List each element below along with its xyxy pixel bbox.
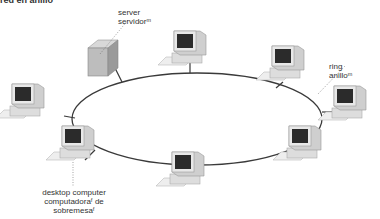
server-label: server servidorᵐ: [118, 8, 151, 26]
desktop-computer-icon: [318, 86, 366, 120]
desktop-computer-icon: [0, 84, 44, 118]
desktop-computer-icon: [158, 31, 206, 65]
desktop-computer-icon: [256, 46, 304, 80]
ring-network-diagram: [0, 0, 380, 219]
desktop-computer-icon: [273, 126, 321, 160]
ring-cable: [72, 73, 322, 165]
desktop-computer-icon: [46, 126, 94, 160]
server-icon: [88, 40, 118, 76]
desktop-computer-icon: [156, 152, 204, 186]
desktop-computer-label: desktop computer computadoraᶠ de sobreme…: [38, 188, 110, 215]
ring-label: ring anilloᵐ: [329, 62, 352, 80]
